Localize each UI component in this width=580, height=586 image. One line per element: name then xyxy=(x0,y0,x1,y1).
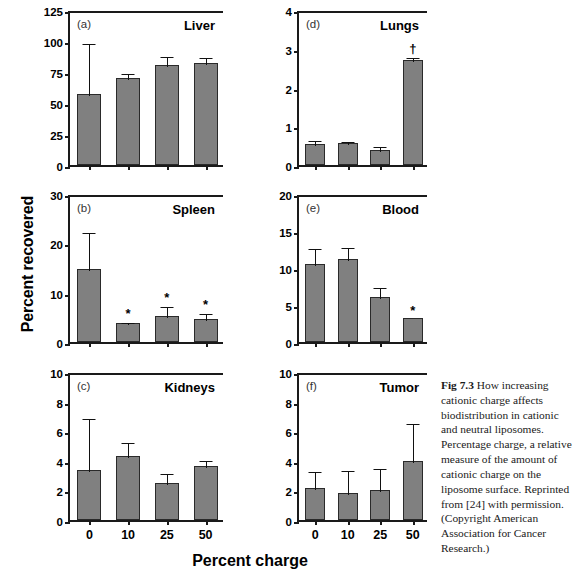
error-bar-cap xyxy=(160,307,173,308)
significance-marker: † xyxy=(409,42,416,55)
y-tick xyxy=(65,12,70,14)
bar xyxy=(77,94,101,165)
bar xyxy=(116,456,140,520)
y-tick-label: 8 xyxy=(286,398,292,410)
bar xyxy=(194,63,218,165)
plot-area: 01234†(d)Lungs xyxy=(297,12,427,167)
bar xyxy=(403,318,423,342)
x-tick xyxy=(380,520,382,525)
x-tick xyxy=(348,342,350,347)
x-tick-label: 50 xyxy=(199,528,213,542)
y-tick xyxy=(65,492,70,494)
y-tick-label: 10 xyxy=(279,264,292,276)
error-bar xyxy=(348,248,349,261)
y-tick-label: 75 xyxy=(50,68,63,80)
error-bar xyxy=(89,233,90,270)
x-tick xyxy=(167,342,169,347)
panel-tag: (f) xyxy=(306,380,317,392)
error-bar xyxy=(167,57,168,67)
panel-tumor: 02468100102550(f)Tumor xyxy=(297,374,427,522)
y-tick-label: 3 xyxy=(286,45,292,57)
y-tick-label: 100 xyxy=(44,37,63,49)
y-tick-label: 0 xyxy=(286,161,292,173)
panel-title: Liver xyxy=(184,18,215,33)
error-bar-cap xyxy=(309,141,322,142)
significance-marker: * xyxy=(126,307,131,320)
error-bar-cap xyxy=(199,58,212,59)
error-bar xyxy=(206,58,207,65)
y-tick-label: 125 xyxy=(44,6,63,18)
x-tick xyxy=(206,342,208,347)
y-tick xyxy=(65,167,70,169)
y-tick-label: 4 xyxy=(286,6,292,18)
y-tick xyxy=(294,344,299,346)
bar xyxy=(116,78,140,165)
y-tick xyxy=(294,196,299,198)
panel-tag: (c) xyxy=(77,380,90,392)
y-tick xyxy=(65,43,70,45)
bar xyxy=(77,470,101,520)
y-tick-label: 0 xyxy=(57,516,63,528)
y-tick-label: 2 xyxy=(57,486,63,498)
y-tick-label: 20 xyxy=(50,239,63,251)
x-tick xyxy=(167,165,169,170)
error-bar xyxy=(167,474,168,485)
y-tick xyxy=(294,270,299,272)
x-tick-label: 25 xyxy=(160,528,174,542)
error-bar-cap xyxy=(199,461,212,462)
y-tick-label: 0 xyxy=(286,516,292,528)
error-bar-cap xyxy=(160,57,173,58)
error-bar xyxy=(128,443,129,458)
y-tick xyxy=(294,374,299,376)
panel-tag: (d) xyxy=(306,18,320,30)
y-tick xyxy=(65,295,70,297)
panel-title: Blood xyxy=(382,202,419,217)
error-bar-cap xyxy=(83,233,96,234)
caption-label: Fig 7.3 xyxy=(441,379,474,391)
plot-area: 02468100102550(c)Kidneys xyxy=(68,374,223,522)
significance-marker: * xyxy=(164,291,169,304)
x-tick xyxy=(89,520,91,525)
error-bar xyxy=(89,44,90,96)
error-bar-cap xyxy=(374,469,387,470)
x-tick xyxy=(206,165,208,170)
panel-lungs: 01234†(d)Lungs xyxy=(297,12,427,167)
y-tick xyxy=(294,404,299,406)
x-tick xyxy=(380,165,382,170)
bar xyxy=(370,297,390,342)
y-tick xyxy=(294,492,299,494)
error-bar xyxy=(380,288,381,299)
x-tick-label: 50 xyxy=(406,528,420,542)
x-tick xyxy=(167,520,169,525)
x-tick-label: 10 xyxy=(121,528,135,542)
x-axis-title: Percent charge xyxy=(55,552,445,570)
x-tick xyxy=(413,165,415,170)
y-tick-label: 1 xyxy=(286,122,292,134)
bar xyxy=(370,490,390,520)
bar xyxy=(155,316,179,342)
y-tick xyxy=(294,522,299,524)
panel-title: Kidneys xyxy=(164,380,215,395)
y-tick-label: 8 xyxy=(57,398,63,410)
y-tick xyxy=(294,128,299,130)
error-bar-cap xyxy=(309,249,322,250)
bar xyxy=(305,144,325,165)
error-bar-cap xyxy=(341,471,354,472)
bar xyxy=(194,466,218,520)
y-tick-label: 10 xyxy=(50,289,63,301)
error-bar-cap xyxy=(199,314,212,315)
error-bar-cap xyxy=(341,248,354,249)
plot-area: 02468100102550(f)Tumor xyxy=(297,374,427,522)
bar xyxy=(116,323,140,342)
y-tick-label: 10 xyxy=(279,368,292,380)
x-tick xyxy=(348,520,350,525)
x-tick xyxy=(348,165,350,170)
x-tick-label: 0 xyxy=(86,528,93,542)
significance-marker: * xyxy=(203,298,208,311)
error-bar xyxy=(315,249,316,265)
y-tick-label: 25 xyxy=(50,130,63,142)
panel-tag: (b) xyxy=(77,202,91,214)
y-tick xyxy=(65,404,70,406)
error-bar xyxy=(348,471,349,495)
x-tick xyxy=(413,342,415,347)
